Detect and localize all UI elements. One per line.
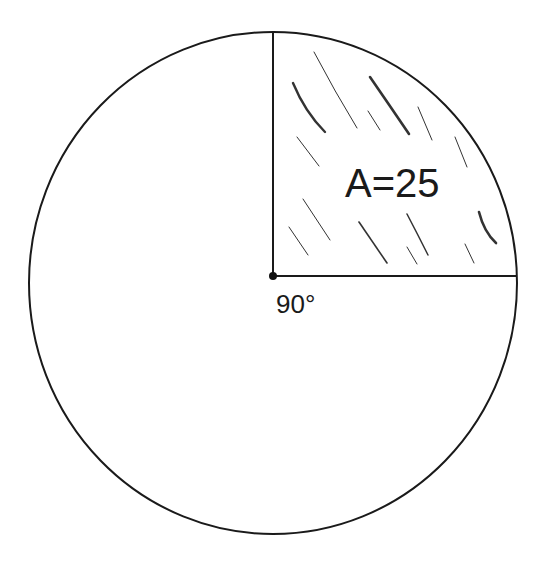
diagram-canvas: A=25 90°: [0, 0, 554, 565]
center-point: [269, 272, 277, 280]
sector-hatching: [289, 52, 496, 264]
circle-diagram: A=25 90°: [0, 0, 554, 565]
area-label: A=25: [345, 161, 440, 205]
angle-label: 90°: [276, 289, 315, 319]
